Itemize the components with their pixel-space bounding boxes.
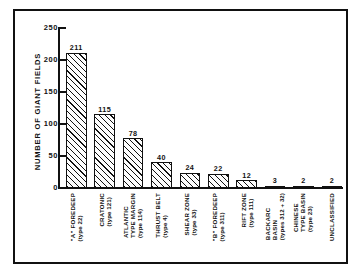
y-axis-tick-label: 50 [48,151,58,161]
x-axis-tick-sublabel: (type 311) [218,193,225,241]
bar [236,180,257,188]
bar-group: 78 [123,138,144,188]
x-axis-tick-sublabel: (type 23) [307,193,314,232]
bar-value-label: 2 [301,176,305,185]
bar-group: 24 [180,173,201,188]
y-axis-tick-mark [60,27,66,29]
x-axis-tick-sublabel: (type 33) [190,193,197,235]
bar-value-label: 2 [330,176,334,185]
x-axis-tick-label: CRATONIC(type 121) [98,193,112,227]
x-axis-tick-sublabel: (type 114) [137,193,144,238]
plot-area: NUMBER OF GIANT FIELDS 050100150200250 2… [0,0,360,275]
y-axis-tick-label: 250 [44,23,58,33]
x-axis-tick-label: ATLANTICTYPE MARGIN(type 114) [122,193,143,238]
bar-group: 12 [236,180,257,188]
bar-group: 115 [94,114,115,188]
bar-group: 2 [322,186,343,188]
y-axis-line [58,27,60,189]
bar [180,173,201,188]
bar [322,186,343,188]
bar-group: 3 [265,186,286,188]
bar-value-label: 78 [129,129,138,138]
y-axis-tick: 0 [20,183,66,193]
bar [151,162,172,188]
bar [293,186,314,188]
x-axis-tick-sublabel: (type 121) [105,193,112,227]
bar-group: 211 [66,53,87,188]
bar-value-label: 22 [214,164,223,173]
y-axis-tick: 150 [20,87,66,97]
y-axis-tick-label: 100 [44,119,58,129]
bar-value-label: 211 [70,43,83,52]
x-axis-tick-sublabel: (type 111) [247,193,254,227]
bar-group: 2 [293,186,314,188]
bar-value-label: 3 [273,176,277,185]
y-axis-tick: 100 [20,119,66,129]
bar [94,114,115,188]
bar [265,186,286,188]
bar-value-label: 12 [242,171,251,180]
x-axis-tick-label: "A" FOREDEEP(type 22) [69,193,83,241]
bar [66,53,87,188]
y-axis-tick-label: 0 [53,183,58,193]
x-axis-tick-label: BACKARCBASIN(types 312 + 32) [264,193,285,240]
x-axis-tick-label: SHEAR ZONE(type 33) [183,193,197,235]
bar-group: 22 [208,174,229,188]
y-axis-tick: 200 [20,55,66,65]
x-axis-tick-label: CHINESETYPE BASIN(type 23) [293,193,314,232]
bar-value-label: 40 [157,153,166,162]
bar [208,174,229,188]
y-axis-tick-label: 150 [44,87,58,97]
bar-group: 40 [151,162,172,188]
y-axis-tick-label: 200 [44,55,58,65]
x-axis-tick-sublabel: (type 22) [76,193,83,241]
bar [123,138,144,188]
x-axis-tick-label: RIFT ZONE(type 111) [240,193,254,227]
y-axis-tick: 50 [20,151,66,161]
y-axis-tick: 250 [20,23,66,33]
x-axis-tick-sublabel: (type 4) [161,193,168,238]
x-axis-tick-label: THRUST BELT(type 4) [154,193,168,238]
x-axis-tick-label: "B" FOREDEEP(type 311) [211,193,225,241]
x-axis-tick-label: UNCLASSIFIED [328,193,335,241]
bar-value-label: 115 [98,105,111,114]
x-axis-tick-sublabel: (types 312 + 32) [279,193,286,240]
figure: NUMBER OF GIANT FIELDS 050100150200250 2… [0,0,360,275]
bar-value-label: 24 [185,163,194,172]
